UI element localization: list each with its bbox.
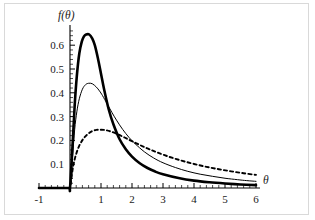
x-tick-label: 3 [160, 193, 166, 205]
y-tick-label: 0.4 [50, 87, 64, 99]
x-axis-tick-labels: -1123456 [34, 193, 259, 205]
thick-solid-curve [39, 34, 256, 191]
x-tick-label: 2 [129, 193, 135, 205]
y-axis-title: f(θ) [58, 9, 75, 22]
y-tick-label: 0.2 [50, 134, 64, 146]
y-tick-label: 0.6 [50, 39, 64, 51]
x-tick-label: -1 [34, 193, 43, 205]
y-tick-label: 0.1 [50, 158, 64, 170]
chart-svg: -1123456 0.10.20.30.40.50.6 f(θ) θ [0, 0, 315, 220]
y-tick-label: 0.3 [50, 111, 64, 123]
chart-plot-area: -1123456 0.10.20.30.40.50.6 f(θ) θ [0, 0, 315, 220]
x-tick-label: 1 [98, 193, 104, 205]
x-tick-label: 6 [253, 193, 259, 205]
y-tick-label: 0.5 [50, 63, 64, 75]
x-tick-label: 5 [222, 193, 228, 205]
x-axis-title: θ [263, 174, 269, 186]
x-tick-label: 4 [191, 193, 197, 205]
y-axis-tick-labels: 0.10.20.30.40.50.6 [50, 39, 64, 170]
